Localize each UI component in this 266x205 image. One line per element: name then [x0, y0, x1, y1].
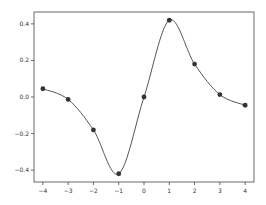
y-tick-label: 0.2	[19, 56, 29, 63]
data-point	[142, 95, 147, 100]
y-tick-label: −0.4	[14, 166, 29, 173]
x-tick-label: 4	[243, 187, 247, 194]
data-point	[116, 171, 121, 176]
data-markers	[40, 18, 247, 176]
x-tick-label: −4	[38, 187, 47, 194]
x-axis: −4−3−2−101234	[38, 182, 247, 194]
x-tick-label: −1	[114, 187, 123, 194]
data-point	[40, 86, 45, 91]
data-point	[66, 97, 71, 102]
x-tick-label: 0	[142, 187, 146, 194]
x-tick-label: 2	[193, 187, 197, 194]
data-point	[192, 62, 197, 67]
chart: 0.40.20.0−0.2−0.4 −4−3−2−101234	[0, 0, 266, 205]
x-tick-label: 1	[167, 187, 171, 194]
y-tick-label: 0.0	[19, 93, 29, 100]
y-tick-label: 0.4	[19, 20, 29, 27]
x-tick-label: −2	[89, 187, 98, 194]
data-point	[167, 18, 172, 23]
y-axis: 0.40.20.0−0.2−0.4	[14, 20, 34, 173]
data-point	[243, 103, 248, 108]
x-tick-label: −3	[64, 187, 73, 194]
data-point	[91, 128, 96, 133]
x-tick-label: 3	[218, 187, 222, 194]
y-tick-label: −0.2	[14, 130, 29, 137]
data-point	[217, 92, 222, 97]
